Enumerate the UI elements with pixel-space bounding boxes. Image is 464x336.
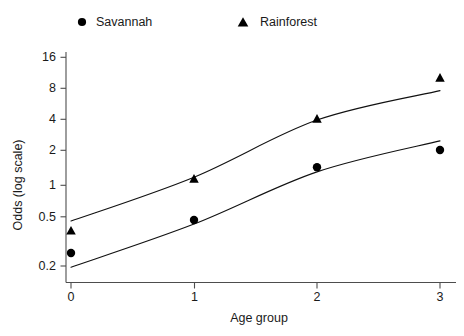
- y-tick-label-0.5: 0.5: [39, 210, 56, 224]
- legend-label-rainforest: Rainforest: [260, 15, 317, 29]
- circle-marker-icon: [78, 18, 86, 26]
- chart-axes: 16 8 4 2 1 0.5 0.2 0 1 2 3 Age gro: [11, 50, 456, 325]
- x-axis-tick-labels: 0 1 2 3: [68, 290, 444, 304]
- chart-legend: Savannah Rainforest: [78, 15, 318, 29]
- chart-canvas: Savannah Rainforest 16 8: [0, 0, 464, 336]
- x-tick-label-1: 1: [191, 290, 198, 304]
- triangle-marker-icon: [312, 114, 322, 123]
- legend-item-rainforest: Rainforest: [238, 15, 318, 29]
- y-axis-title: Odds (log scale): [11, 139, 25, 230]
- circle-marker-icon: [436, 146, 444, 154]
- x-tick-label-0: 0: [68, 290, 75, 304]
- y-tick-label-16: 16: [42, 50, 56, 64]
- series-rainforest: [66, 73, 445, 235]
- legend-label-savannah: Savannah: [96, 15, 152, 29]
- y-tick-label-4: 4: [49, 112, 56, 126]
- triangle-marker-icon: [66, 226, 76, 235]
- y-tick-label-1: 1: [49, 178, 56, 192]
- fit-curve-rainforest: [71, 91, 440, 221]
- y-tick-label-0.2: 0.2: [39, 259, 56, 273]
- circle-marker-icon: [190, 216, 198, 224]
- y-tick-label-8: 8: [49, 81, 56, 95]
- triangle-marker-icon: [435, 73, 445, 82]
- x-axis-title: Age group: [230, 311, 288, 325]
- y-tick-label-2: 2: [49, 143, 56, 157]
- chart-series-layer: [66, 73, 445, 267]
- series-savannah: [67, 141, 444, 267]
- y-axis-ticks: [61, 57, 67, 266]
- circle-marker-icon: [313, 163, 321, 171]
- y-axis-tick-labels: 16 8 4 2 1 0.5 0.2: [39, 50, 56, 273]
- x-axis-ticks: [71, 283, 440, 289]
- x-tick-label-3: 3: [437, 290, 444, 304]
- triangle-marker-icon: [238, 17, 249, 26]
- fit-curve-savannah: [71, 141, 440, 267]
- x-tick-label-2: 2: [314, 290, 321, 304]
- circle-marker-icon: [67, 249, 75, 257]
- chart-figure: Savannah Rainforest 16 8: [0, 0, 464, 336]
- legend-item-savannah: Savannah: [78, 15, 152, 29]
